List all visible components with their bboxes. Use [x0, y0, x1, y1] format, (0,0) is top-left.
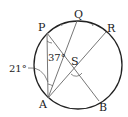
angle-label-21: 21°: [9, 63, 27, 74]
arc-tick-QR: [92, 24, 93, 26]
angle-mark-P: [47, 41, 52, 43]
label-P: P: [38, 21, 46, 34]
label-B: B: [99, 101, 107, 114]
geometry-diagram: P Q R A B S 37° 21°: [0, 0, 128, 117]
angle-mark-S: [71, 73, 82, 76]
label-S: S: [71, 55, 79, 68]
angle-mark-A: [48, 84, 53, 86]
angle-label-37: 37°: [48, 52, 66, 63]
label-R: R: [107, 22, 116, 35]
label-Q: Q: [74, 8, 83, 21]
segment-AP: [47, 33, 48, 98]
label-A: A: [38, 98, 48, 111]
angle-leader-21: [28, 68, 48, 82]
